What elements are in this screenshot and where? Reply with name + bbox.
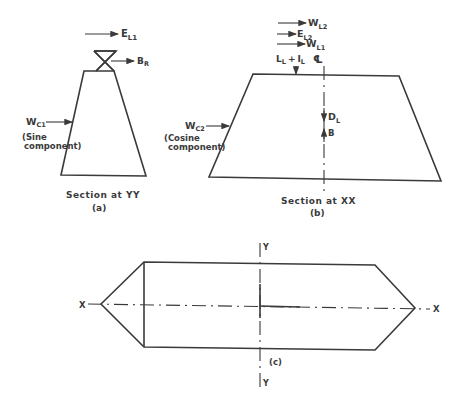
centerline-symbol: ℄ xyxy=(313,53,323,66)
label-d-l: DL xyxy=(328,111,340,125)
axis-x-right-label: X xyxy=(433,304,440,314)
panel-c: X X Y Y (c) xyxy=(79,243,440,390)
pier-plan xyxy=(101,262,415,350)
diagram-canvas: EL1 BR WC1 (Sine component) Section at Y… xyxy=(0,0,455,398)
axis-x-left-label: X xyxy=(79,300,86,310)
panel-a-label: (a) xyxy=(92,203,106,213)
axis-y-bottom-label: Y xyxy=(262,379,269,388)
panel-b: WL2 EL2 WL1 LL+IL ℄ DL B xyxy=(164,17,441,218)
label-e-l1: EL1 xyxy=(121,28,137,42)
label-ll-plus-il: LL+IL xyxy=(276,54,305,66)
axis-x xyxy=(88,304,430,309)
caption-section-xx: Section at XX xyxy=(281,196,356,206)
pier-section-xx xyxy=(209,74,441,181)
pier-section-yy xyxy=(61,71,146,176)
panel-b-label: (b) xyxy=(310,208,325,218)
label-b: B xyxy=(328,128,334,138)
label-w-l1: WL1 xyxy=(306,38,326,52)
axis-y-top-label: Y xyxy=(262,243,269,252)
label-b-r: BR xyxy=(137,56,149,68)
label-w-l2: WL2 xyxy=(308,17,327,31)
axis-x-center-mark xyxy=(260,306,300,307)
label-w-c2: WC2 xyxy=(185,120,205,133)
panel-a: EL1 BR WC1 (Sine component) Section at Y… xyxy=(22,28,149,213)
panel-c-label: (c) xyxy=(269,357,282,367)
note-component-a: component) xyxy=(24,141,82,151)
label-w-c1: WC1 xyxy=(26,116,46,129)
caption-section-yy: Section at YY xyxy=(66,190,140,200)
note-component-b: component) xyxy=(168,142,226,152)
